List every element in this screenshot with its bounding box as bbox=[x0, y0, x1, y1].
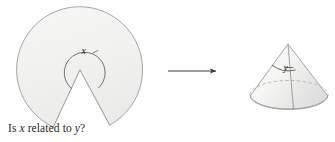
cone-shape: y bbox=[250, 44, 328, 110]
caption-suffix: ? bbox=[80, 122, 85, 134]
sector-shape: x bbox=[17, 7, 143, 127]
figure-illustration: x y bbox=[0, 0, 335, 142]
figure-caption: Is x related to y? bbox=[8, 122, 85, 134]
cone-angle-label: y bbox=[282, 63, 288, 73]
figure-container: x y Is x related to y? bbox=[0, 0, 335, 142]
caption-middle: related to bbox=[25, 122, 75, 134]
sector-angle-label: x bbox=[80, 46, 86, 56]
caption-prefix: Is bbox=[8, 122, 19, 134]
